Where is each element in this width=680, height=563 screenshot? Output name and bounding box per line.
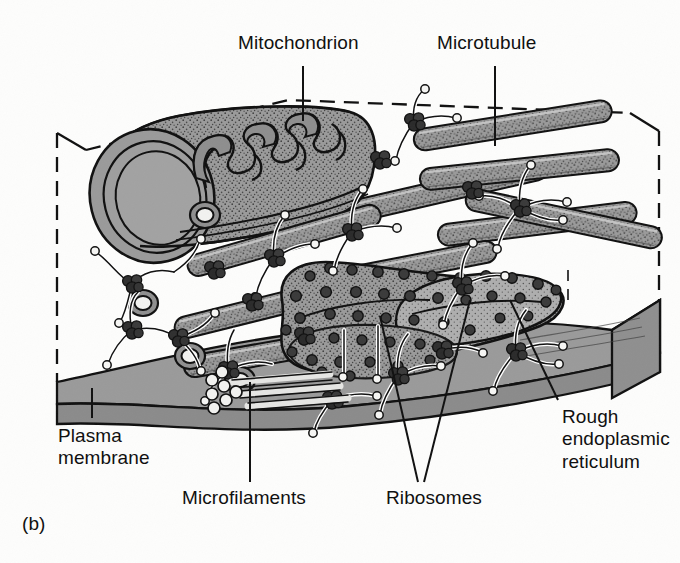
ribosome [295, 313, 305, 323]
ribosome [347, 265, 357, 275]
label-rough-er: Rough endoplasmic reticulum [562, 406, 670, 473]
ribosome [515, 293, 525, 303]
ribosome [433, 293, 443, 303]
ribosome [541, 297, 551, 307]
ribosome [291, 291, 302, 302]
label-mitochondrion: Mitochondrion [238, 32, 359, 54]
ribosome [365, 357, 375, 367]
ribosome [307, 355, 317, 365]
ribosome [551, 285, 561, 295]
ribosome [351, 287, 362, 298]
ribosome [373, 267, 383, 277]
ribosome [381, 313, 391, 323]
ribosome [405, 291, 416, 302]
ribosome [379, 289, 390, 300]
ribosome [353, 311, 363, 321]
cell-cytoskeleton-diagram [0, 0, 680, 563]
ribosome [533, 279, 543, 289]
ribosome [409, 315, 419, 325]
ribosome [357, 335, 367, 345]
label-microtubule: Microtubule [437, 32, 536, 54]
ribosome [329, 333, 339, 343]
ribosome [425, 355, 435, 365]
ribosome [281, 325, 291, 335]
ribosome [495, 313, 505, 323]
ribosome [465, 325, 475, 335]
ribosome [287, 347, 297, 357]
ribosome [321, 287, 332, 298]
label-ribosomes: Ribosomes [386, 487, 482, 509]
ribosome [399, 269, 409, 279]
ribosome [427, 271, 437, 281]
label-plasma-membrane: Plasma membrane [58, 425, 150, 470]
panel-label: (b) [22, 513, 46, 535]
microtubule-cross-section [190, 202, 220, 228]
ribosome [325, 309, 335, 319]
label-microfilaments: Microfilaments [182, 487, 306, 509]
ribosome [305, 271, 315, 281]
ribosome [415, 339, 425, 349]
ribosome [487, 291, 497, 301]
